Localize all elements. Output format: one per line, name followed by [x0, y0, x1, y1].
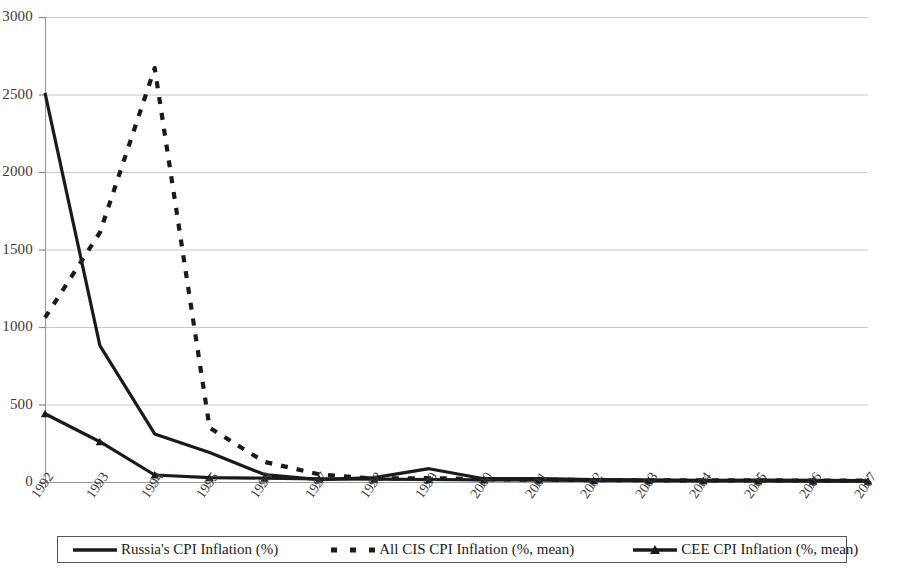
chart-plot-area: [0, 0, 905, 568]
solid-line-marker-swatch: [632, 543, 678, 557]
dashed-line-swatch: [330, 543, 376, 557]
series-line-1: [45, 68, 868, 481]
chart-figure: 050010001500200025003000 199219931994199…: [0, 0, 905, 568]
legend-item-label: Russia's CPI Inflation (%): [121, 542, 278, 557]
y-axis-tick-label: 1500: [0, 242, 33, 257]
solid-line-swatch: [72, 543, 118, 557]
legend-item[interactable]: All CIS CPI Inflation (%, mean): [330, 542, 574, 557]
legend-item-label: CEE CPI Inflation (%, mean): [681, 542, 858, 557]
y-axis-tick-label: 0: [0, 474, 33, 489]
legend-item[interactable]: Russia's CPI Inflation (%): [72, 542, 278, 557]
legend-item[interactable]: CEE CPI Inflation (%, mean): [632, 542, 858, 557]
y-axis-tick-label: 2000: [0, 164, 33, 179]
y-axis-tick-label: 3000: [0, 9, 33, 24]
data-series-layer: [41, 68, 872, 485]
y-axis-tick-label: 2500: [0, 87, 33, 102]
legend-item-label: All CIS CPI Inflation (%, mean): [379, 542, 574, 557]
y-axis-tick-label: 500: [0, 397, 33, 412]
chart-legend: Russia's CPI Inflation (%)All CIS CPI In…: [57, 536, 847, 563]
series-line-2: [45, 414, 868, 481]
y-axis-tick-label: 1000: [0, 319, 33, 334]
gridlines: [45, 18, 868, 406]
